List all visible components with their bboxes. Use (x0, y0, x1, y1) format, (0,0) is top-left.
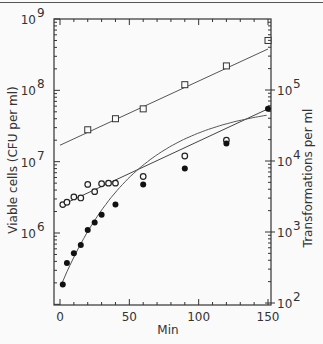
point-open-square (140, 106, 146, 112)
point-open-circle (99, 181, 105, 187)
y-axis-right-title: Transformations per ml (301, 109, 315, 249)
point-open-circle (92, 189, 98, 195)
plot-frame (54, 19, 271, 305)
point-filled-circle (85, 227, 91, 233)
point-filled-circle (99, 212, 105, 218)
y-tick-label-left-exp: 9 (37, 6, 45, 20)
y-tick-label-right-exp: 2 (293, 290, 301, 304)
y-tick-label-left: 10 (21, 84, 36, 98)
y-axis-left-title: Viable cells (CFU per ml) (6, 86, 20, 234)
y-tick-label-left: 10 (21, 156, 36, 170)
point-filled-circle (71, 250, 77, 256)
y-tick-label-right: 10 (277, 226, 292, 240)
y-tick-label-left-exp: 7 (37, 149, 45, 163)
point-filled-circle (92, 220, 98, 226)
x-tick-label: 50 (122, 310, 137, 324)
x-tick-label: 0 (56, 310, 64, 324)
point-open-circle (71, 194, 77, 200)
y-tick-label-right: 10 (277, 297, 292, 311)
point-open-circle (140, 174, 146, 180)
y-tick-label-right-exp: 3 (293, 219, 301, 233)
point-filled-circle (60, 281, 66, 287)
x-tick-label: 100 (187, 310, 210, 324)
point-filled-circle (182, 166, 188, 172)
fit-lines (60, 49, 268, 285)
y-tick-label-left: 10 (21, 227, 36, 241)
point-filled-circle (78, 242, 84, 248)
point-filled-circle (112, 202, 118, 208)
y-tick-label-right: 10 (277, 84, 292, 98)
point-open-square (112, 116, 118, 122)
fit-curve-filled-circles (61, 115, 266, 284)
point-filled-circle (64, 260, 70, 266)
fit-line-open-circles (60, 109, 268, 206)
point-open-circle (64, 199, 70, 205)
plot-border (54, 19, 271, 305)
point-open-square (223, 63, 229, 69)
y-tick-label-right: 10 (277, 155, 292, 169)
data-points (60, 37, 271, 287)
point-open-square (182, 82, 188, 88)
point-open-circle (78, 195, 84, 201)
y-tick-label-right-exp: 4 (293, 148, 301, 162)
point-open-circle (113, 180, 119, 186)
y-tick-label-left: 10 (21, 13, 36, 27)
chart: 050100150109108107106105104103102 Min Vi… (0, 0, 323, 344)
point-filled-circle (223, 140, 229, 146)
x-axis-title: Min (157, 323, 178, 337)
point-open-circle (85, 182, 91, 188)
y-tick-label-left-exp: 6 (37, 220, 45, 234)
point-filled-circle (140, 181, 146, 187)
point-open-circle (106, 180, 112, 186)
y-tick-label-right-exp: 5 (293, 77, 301, 91)
point-open-square (85, 127, 91, 133)
point-open-circle (182, 153, 188, 159)
x-tick-label: 150 (257, 310, 280, 324)
y-tick-label-left-exp: 8 (37, 77, 45, 91)
